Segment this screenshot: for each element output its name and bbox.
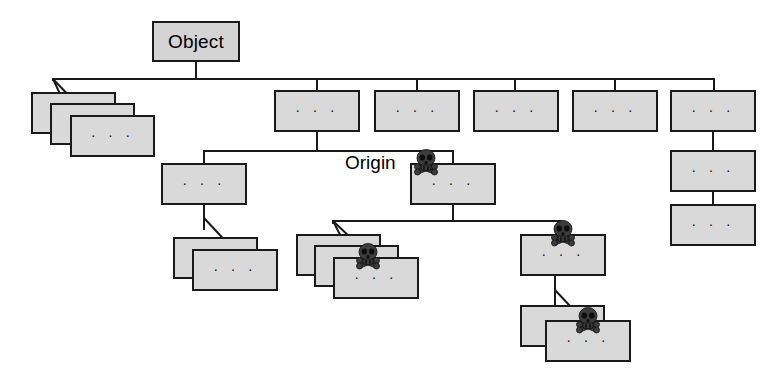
skull-icon-l4-rightstack [573,306,603,334]
diagram-canvas: Object · · · · · · · · · · · · · · · · ·… [0,0,783,376]
edge-diagonal-l4-rightstack [0,0,783,376]
